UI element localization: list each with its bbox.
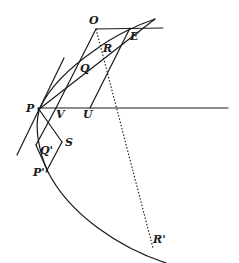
label-P: P (26, 103, 34, 114)
label-U: U (83, 109, 93, 120)
label-Q-prime: Q' (40, 145, 53, 156)
label-R: R (103, 43, 112, 54)
label-Q: Q (80, 63, 90, 74)
geometry-diagram: O E R Q P V U S Q' P' R' (0, 0, 239, 263)
diagram-lines (0, 0, 239, 263)
line-O-Q (56, 29, 96, 108)
line-V-Qprime (36, 108, 56, 145)
conic-curve (37, 19, 166, 263)
label-P-prime: P' (33, 167, 45, 178)
label-R-prime: R' (153, 234, 166, 245)
label-S: S (65, 137, 73, 148)
dotted-line-O-Rprime (96, 29, 153, 248)
label-E: E (130, 31, 138, 42)
label-O: O (89, 15, 99, 26)
label-V: V (56, 109, 65, 120)
